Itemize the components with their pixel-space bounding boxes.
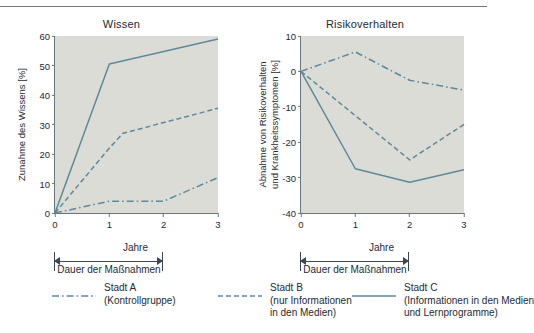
chart-panel-wissen: Wissen Zunahme des Wissens [%] 010203040…: [0, 0, 243, 275]
legend-swatch-dash-dot-icon: [52, 287, 96, 297]
y-tick-label: -20: [282, 137, 301, 148]
bracket-label: Dauer der Maßnahmen: [260, 264, 450, 275]
legend-sublabel-2: und Lernprogramme): [404, 307, 534, 320]
y-tick-label: -10: [282, 101, 301, 112]
y-axis-label-line2: und Krankheitssymptomen [%]: [269, 36, 281, 213]
series-line-stadt-a: [55, 178, 218, 213]
x-tick-label: 2: [161, 213, 166, 230]
bracket-line: [54, 261, 163, 262]
plot-area-risikoverhalten: 100-10-20-30-400123: [300, 36, 464, 214]
x-tick-label: 1: [353, 213, 358, 230]
y-tick-label: -30: [282, 172, 301, 183]
y-tick-label: 10: [39, 178, 55, 189]
chart-title-risikoverhalten: Risikoverhalten: [243, 18, 487, 30]
x-tick-label: 2: [407, 213, 412, 230]
chart-title-wissen: Wissen: [0, 18, 243, 30]
y-tick-label: 20: [39, 149, 55, 160]
legend-label: Stadt C: [404, 282, 534, 295]
legend-label: Stadt B: [270, 282, 352, 295]
series-canvas-risikoverhalten: [301, 36, 464, 213]
x-tick-label: 0: [298, 213, 303, 230]
duration-bracket-wissen: Dauer der Maßnahmen: [54, 252, 163, 274]
legend-sublabel-1: (nur Informationen: [270, 295, 352, 308]
duration-bracket-risikoverhalten: Dauer der Maßnahmen: [300, 252, 409, 274]
chart-legend: Stadt A(Kontrollgruppe)Stadt B(nur Infor…: [0, 282, 487, 333]
series-canvas-wissen: [55, 36, 218, 213]
y-tick-label: 30: [39, 119, 55, 130]
bracket-line: [300, 261, 409, 262]
x-tick-label: 0: [52, 213, 57, 230]
y-tick-label: 0: [291, 66, 301, 77]
legend-text-stadt-b: Stadt B(nur Informationenin den Medien): [270, 282, 352, 320]
plot-area-wissen: 01020304050600123: [54, 36, 218, 214]
series-line-stadt-c: [55, 39, 218, 213]
series-line-stadt-b: [55, 108, 218, 213]
y-tick-label: 60: [39, 31, 55, 42]
y-tick-label: 50: [39, 60, 55, 71]
y-axis-label-risikoverhalten: Abnahme von Risikoverhalten und Krankhei…: [257, 36, 280, 213]
legend-sublabel-2: in den Medien): [270, 307, 352, 320]
x-tick-label: 1: [107, 213, 112, 230]
legend-text-stadt-c: Stadt C(Informationen in den Medienund L…: [404, 282, 534, 320]
y-tick-label: 40: [39, 90, 55, 101]
x-tick-label: 3: [461, 213, 466, 230]
legend-swatch-solid-icon: [352, 287, 396, 297]
y-axis-label-line1: Abnahme von Risikoverhalten: [257, 36, 269, 213]
chart-panel-risikoverhalten: Risikoverhalten Abnahme von Risikoverhal…: [243, 0, 487, 275]
series-line-stadt-c: [301, 71, 464, 182]
legend-text-stadt-a: Stadt A(Kontrollgruppe): [104, 282, 176, 307]
series-line-stadt-a: [301, 52, 464, 90]
legend-label: Stadt A: [104, 282, 176, 295]
x-tick-label: 3: [215, 213, 220, 230]
legend-sublabel-1: (Kontrollgruppe): [104, 295, 176, 308]
legend-sublabel-1: (Informationen in den Medien: [404, 295, 534, 308]
bracket-label: Dauer der Maßnahmen: [14, 264, 204, 275]
y-axis-label-wissen: Zunahme des Wissens [%]: [16, 36, 27, 213]
legend-swatch-dashed-icon: [218, 287, 262, 297]
y-tick-label: 10: [285, 31, 301, 42]
